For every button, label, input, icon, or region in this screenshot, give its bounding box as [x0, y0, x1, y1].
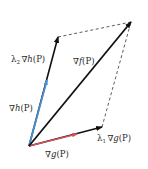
label-grad-h: ∇h(P)	[9, 103, 33, 113]
grad-g-vector	[29, 134, 77, 146]
label-lambda2-grad-h: λ2∇h(P)	[11, 54, 45, 65]
label-lambda1-grad-g: λ1∇g(P)	[97, 133, 131, 144]
grad-f-vector	[29, 22, 131, 146]
dashed-right-side	[102, 22, 131, 127]
lagrange-vector-diagram: λ2∇h(P) ∇h(P) ∇f(P) ∇g(P) λ1∇g(P)	[0, 0, 148, 169]
label-grad-f: ∇f(P)	[73, 56, 94, 66]
label-grad-g: ∇g(P)	[45, 149, 69, 159]
